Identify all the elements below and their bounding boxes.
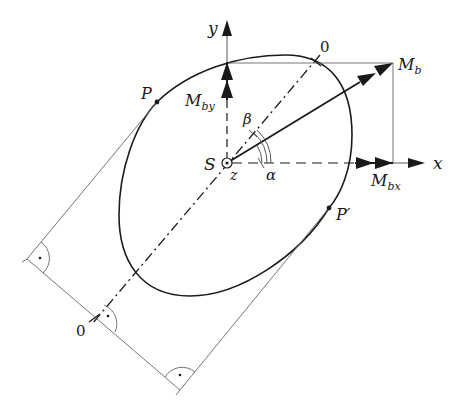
label-neutral-axis-top: 0 [320,38,330,56]
label-mb: Mb [397,55,421,77]
label-x-axis: x [433,153,443,173]
alpha-tick [258,158,264,168]
mb-arrowhead-2 [374,63,393,76]
neutral-axis [92,55,320,324]
y-axis-arrowhead [222,20,232,36]
beta-arc-1 [254,133,267,163]
mb-arrowhead-1 [357,73,376,86]
label-beta: β [242,110,252,128]
x-axis-arrowhead [408,158,425,168]
label-centroid: S [204,154,216,174]
label-z-axis: z [229,167,238,183]
beta-tick [249,130,257,137]
bending-diagram: y x z S Mb Mby Mbx β α P P′ 0 0 [0,0,467,412]
label-point-p: P [140,84,152,103]
centroid-dot [225,161,228,164]
label-point-p-prime: P′ [335,205,351,224]
label-y-axis: y [207,18,218,38]
label-mbx: Mbx [370,171,401,193]
right-angle-marks [41,242,195,377]
point-p-prime [327,206,332,211]
point-p [155,100,160,105]
label-neutral-axis-bottom: 0 [76,322,86,340]
right-angle-dots [39,257,182,377]
label-mby: Mby [184,91,215,113]
label-alpha: α [266,166,276,184]
